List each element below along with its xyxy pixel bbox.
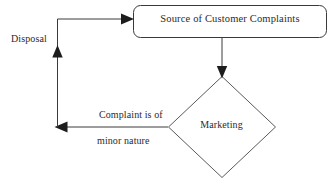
source-box-label: Source of Customer Complaints: [133, 14, 327, 25]
diagram-canvas: Source of Customer Complaints Marketing …: [0, 0, 335, 186]
edge-source-to-marketing-arrowhead: [217, 66, 227, 79]
edge-disposal-return-up-arrowhead: [52, 45, 62, 58]
edge-marketing-to-disposal-arrowhead: [55, 122, 68, 133]
marketing-diamond-label: Marketing: [168, 120, 275, 130]
minor-complaint-edge-label-line-1: Complaint is of: [99, 110, 163, 120]
disposal-edge-label: Disposal: [11, 34, 47, 44]
flowchart-svg: [0, 0, 335, 186]
minor-complaint-edge-label-line-2: minor nature: [97, 136, 150, 146]
